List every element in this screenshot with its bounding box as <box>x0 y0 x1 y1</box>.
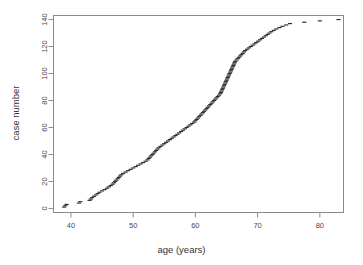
y-tick-label: 120 <box>40 40 49 53</box>
x-tick-label: 70 <box>253 221 261 230</box>
x-axis-ticks <box>71 213 320 218</box>
data-markers <box>62 20 341 208</box>
y-axis-title-text: case number <box>10 86 21 141</box>
y-tick-label: 140 <box>40 13 49 26</box>
chart-figure: 4050607080020406080100120140 age (years)… <box>0 0 363 265</box>
y-axis-title: case number <box>5 53 23 173</box>
y-tick-label: 40 <box>40 150 49 158</box>
y-tick-label: 80 <box>40 96 49 104</box>
y-tick-label: 100 <box>40 67 49 80</box>
x-tick-label: 60 <box>191 221 199 230</box>
y-axis-ticks <box>49 20 54 209</box>
y-tick-label: 0 <box>40 206 49 210</box>
x-tick-label: 40 <box>67 221 75 230</box>
x-tick-label: 80 <box>316 221 324 230</box>
y-tick-label: 60 <box>40 123 49 131</box>
axis-tick-labels: 4050607080020406080100120140 <box>40 13 324 229</box>
chart-canvas: 4050607080020406080100120140 <box>0 0 363 265</box>
y-tick-label: 20 <box>40 177 49 185</box>
x-axis-title-text: age (years) <box>157 244 205 255</box>
x-tick-label: 50 <box>129 221 137 230</box>
plot-border <box>54 16 344 213</box>
x-axis-title: age (years) <box>0 239 363 257</box>
plot-frame <box>54 16 344 213</box>
